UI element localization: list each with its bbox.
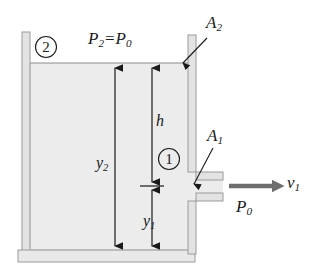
area-top-sub: 2 (216, 21, 222, 33)
surface-pressure-p0-sub: 0 (126, 37, 132, 49)
bottom-wall (18, 250, 195, 262)
surface-pressure-p2: P (88, 29, 98, 48)
area-top-a: A (206, 13, 216, 32)
velocity-v: v (287, 173, 295, 192)
velocity-label: v1 (287, 174, 300, 193)
left-wall (22, 32, 30, 254)
ambient-pressure-p: P (236, 197, 246, 216)
ambient-pressure-label: P0 (236, 198, 252, 217)
surface-pressure-equals: = (104, 29, 116, 48)
spout-lower-lip (196, 193, 223, 201)
fluid-tank-diagram: 2 1 P2=P0 A2 A1 h y2 y1 P0 v1 (0, 0, 320, 276)
area-spout-a: A (207, 126, 217, 145)
point-marker-label-2: 2 (36, 40, 56, 55)
point-marker-label-1: 1 (159, 152, 179, 167)
height-y1-sub: 1 (150, 220, 155, 231)
right-wall-lower (188, 201, 196, 254)
height-y1-label: y1 (143, 213, 155, 232)
right-wall-upper (188, 35, 196, 172)
ambient-pressure-sub: 0 (246, 205, 252, 217)
surface-pressure-p0: P (116, 29, 126, 48)
area-spout-sub: 1 (217, 134, 223, 146)
surface-pressure-label: P2=P0 (88, 30, 132, 49)
area-top-label: A2 (206, 14, 222, 33)
height-h-label: h (156, 113, 164, 129)
area-spout-label: A1 (207, 127, 223, 146)
height-y2-label: y2 (96, 155, 108, 174)
height-y2-sub: 2 (103, 162, 108, 173)
velocity-sub: 1 (295, 181, 301, 193)
